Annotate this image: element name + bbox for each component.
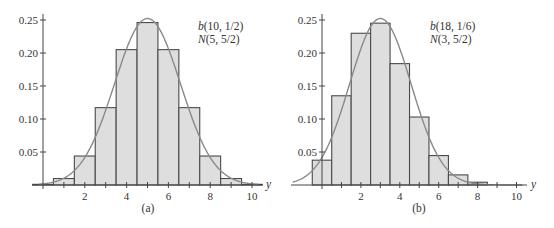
legend-params: (3, 5/2) — [438, 33, 472, 46]
y-tick-label: 0.10 — [19, 113, 39, 125]
legend-params: (10, 1/2) — [204, 20, 244, 33]
x-tick-label: 4 — [397, 190, 403, 202]
x-tick-label: 10 — [247, 190, 259, 202]
chart-panel-a: 2468100.050.100.150.200.25 b(10, 1/2) N(… — [19, 14, 272, 215]
y-tick-label: 0.25 — [298, 14, 318, 26]
x-axis-label-b: y — [530, 178, 537, 191]
legend-binomial-b: b(18, 1/6) — [430, 20, 476, 33]
y-tick-label: 0.15 — [19, 80, 39, 92]
x-tick-label: 2 — [358, 190, 364, 202]
y-tick-label: 0.20 — [19, 47, 39, 59]
bar-3 — [95, 108, 116, 185]
legend-normal-b: N(3, 5/2) — [429, 33, 472, 46]
legend-binomial-a: b(10, 1/2) — [198, 20, 244, 33]
legend-params: (18, 1/6) — [436, 20, 476, 33]
y-tick-label: 0.10 — [298, 113, 318, 125]
bar-4 — [390, 64, 409, 185]
bar-5 — [410, 117, 429, 185]
y-tick-label: 0.05 — [19, 146, 39, 158]
y-tick-label: 0.05 — [298, 146, 318, 158]
x-tick-label: 2 — [82, 190, 88, 202]
legend-normal-a: N(5, 5/2) — [197, 33, 240, 46]
bar-5 — [137, 23, 158, 185]
x-axis-label-a: y — [265, 178, 272, 191]
bar-6 — [429, 156, 448, 185]
bars-a — [33, 23, 263, 185]
x-tick-label: 6 — [166, 190, 172, 202]
caption-a: (a) — [142, 202, 155, 215]
y-tick-label: 0.20 — [298, 47, 318, 59]
bar-2 — [351, 33, 370, 185]
chart-panel-b: 2468100.050.100.150.200.25 b(18, 1/6) N(… — [291, 14, 537, 215]
x-tick-label: 8 — [207, 190, 213, 202]
caption-b: (b) — [412, 202, 426, 215]
y-tick-label: 0.15 — [298, 80, 318, 92]
y-tick-label: 0.25 — [19, 14, 39, 26]
x-tick-label: 4 — [124, 190, 130, 202]
x-tick-label: 8 — [475, 190, 481, 202]
bar-3 — [371, 23, 390, 185]
figure: 2468100.050.100.150.200.25 b(10, 1/2) N(… — [0, 0, 554, 228]
x-tick-label: 6 — [436, 190, 442, 202]
legend-params: (5, 5/2) — [206, 33, 240, 46]
bar-8 — [200, 156, 221, 185]
bar-2 — [74, 156, 95, 185]
x-tick-label: 10 — [511, 190, 523, 202]
bar-7 — [179, 108, 200, 185]
